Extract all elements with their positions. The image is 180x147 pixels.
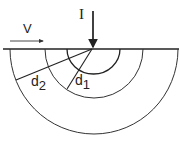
- diagram-canvas: I V d2 d1: [0, 0, 180, 147]
- inner-equipotential-arc: [67, 49, 120, 74]
- outer-equipotential-arc: [10, 49, 178, 134]
- d2-label: d2: [31, 73, 46, 93]
- d1-label-sub: 1: [83, 77, 90, 92]
- velocity-label: V: [23, 21, 32, 36]
- d1-label-main: d: [75, 72, 83, 88]
- current-label: I: [79, 6, 84, 22]
- d2-label-main: d: [31, 73, 39, 89]
- d2-label-sub: 2: [39, 78, 46, 93]
- d1-label: d1: [75, 72, 90, 92]
